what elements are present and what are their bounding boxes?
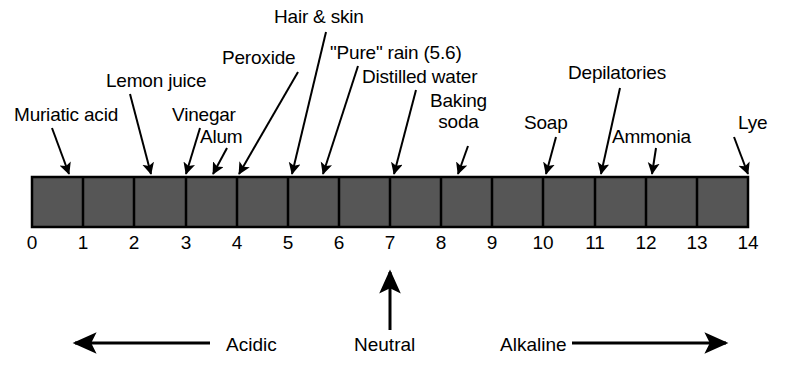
tick-number-5: 5 — [283, 233, 294, 253]
tick-number-0: 0 — [27, 233, 38, 253]
ph-bar — [32, 177, 748, 227]
leader-line-pure-rain — [323, 66, 358, 174]
callout-label-muriatic-acid: Muriatic acid — [14, 104, 118, 125]
callout-label-depilatories: Depilatories — [568, 62, 666, 83]
callout-label-alum: Alum — [200, 126, 243, 147]
leader-line-lemon-juice — [130, 94, 151, 174]
tick-number-10: 10 — [532, 233, 553, 253]
tick-number-8: 8 — [436, 233, 447, 253]
tick-number-14: 14 — [737, 233, 758, 253]
tick-number-3: 3 — [181, 233, 192, 253]
tick-number-2: 2 — [129, 233, 140, 253]
callout-label-lemon-juice: Lemon juice — [106, 70, 206, 91]
callout-label-baking-soda: Baking soda — [430, 90, 487, 132]
tick-number-1: 1 — [78, 233, 89, 253]
leader-line-soap — [546, 137, 556, 174]
callout-label-hair-and-skin: Hair & skin — [274, 6, 364, 27]
callout-label-soap: Soap — [524, 112, 568, 133]
leader-line-ammonia — [652, 148, 656, 174]
acidic-label: Acidic — [226, 335, 277, 355]
leader-line-baking-soda — [458, 146, 468, 174]
callout-label-peroxide: Peroxide — [222, 47, 295, 68]
leader-line-muriatic-acid — [52, 128, 69, 174]
callout-label-pure-rain: "Pure" rain (5.6) — [330, 42, 462, 63]
tick-number-11: 11 — [585, 233, 605, 253]
leader-line-alum — [213, 148, 227, 174]
tick-number-7: 7 — [385, 233, 396, 253]
callout-label-ammonia: Ammonia — [612, 126, 691, 147]
callout-label-vinegar: Vinegar — [172, 104, 236, 125]
callout-label-distilled-water: Distilled water — [362, 66, 477, 87]
tick-number-4: 4 — [232, 233, 243, 253]
ph-scale-figure: Muriatic acidLemon juiceVinegarAlumPerox… — [0, 0, 804, 380]
tick-number-6: 6 — [334, 233, 345, 253]
leader-line-hair-and-skin — [292, 32, 326, 174]
alkaline-label: Alkaline — [500, 335, 567, 355]
leader-line-distilled-water — [394, 90, 416, 174]
tick-number-12: 12 — [635, 233, 656, 253]
tick-number-9: 9 — [487, 233, 498, 253]
leader-line-vinegar — [186, 128, 200, 174]
callout-label-lye: Lye — [738, 112, 767, 133]
leader-line-peroxide — [239, 72, 298, 174]
leader-line-lye — [734, 137, 748, 174]
neutral-label: Neutral — [354, 335, 415, 355]
tick-number-13: 13 — [686, 233, 707, 253]
